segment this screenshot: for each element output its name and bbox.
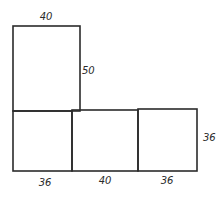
bottom-middle-face: [72, 110, 138, 171]
label-top-height: 50: [82, 65, 95, 76]
top-face: [13, 26, 80, 111]
label-bottom-right-width: 36: [161, 175, 174, 186]
label-bottom-left-width: 36: [39, 177, 52, 188]
label-top-width: 40: [40, 11, 53, 22]
bottom-right-face: [138, 109, 197, 171]
label-bottom-middle-width: 40: [99, 175, 112, 186]
bottom-left-face: [13, 111, 72, 171]
label-bottom-height: 36: [203, 132, 216, 143]
prism-net-diagram: 40 50 36 36 40 36: [0, 0, 224, 200]
